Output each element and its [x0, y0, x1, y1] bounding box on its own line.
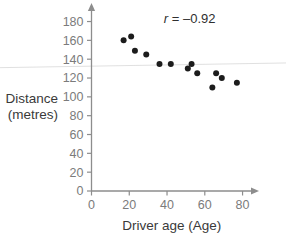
x-axis-tick-label: 40 — [160, 198, 174, 212]
x-axis-tick-label: 0 — [88, 198, 95, 212]
y-axis-tick-label: 100 — [63, 90, 84, 104]
data-point — [121, 37, 127, 43]
data-point — [168, 61, 174, 67]
data-point — [209, 84, 215, 90]
data-point — [234, 80, 240, 86]
y-axis-tick-label: 120 — [63, 71, 84, 85]
plot-canvas: 020406080100120140160180020406080Distanc… — [0, 0, 286, 235]
y-axis-tick-label: 40 — [70, 147, 84, 161]
faint-background-rule — [0, 63, 286, 68]
x-axis-arrow-icon — [251, 187, 259, 194]
data-point — [185, 66, 191, 72]
y-axis-tick-label: 60 — [70, 128, 84, 142]
data-point — [132, 48, 138, 54]
data-point — [143, 51, 149, 57]
data-point — [156, 61, 162, 67]
y-axis-title-line: Distance — [5, 91, 58, 106]
y-axis-tick-label: 160 — [63, 34, 84, 48]
scatter-plot-figure: 020406080100120140160180020406080Distanc… — [0, 0, 286, 235]
data-point — [194, 70, 200, 76]
x-axis-title: Driver age (Age) — [122, 218, 221, 233]
data-point — [128, 34, 134, 40]
x-axis-tick-label: 60 — [198, 198, 212, 212]
y-axis-tick-label: 0 — [77, 184, 84, 198]
x-axis-tick-label: 80 — [236, 198, 250, 212]
data-point — [219, 75, 225, 81]
y-axis-title-line: (metres) — [8, 107, 58, 122]
y-axis-arrow-icon — [88, 3, 95, 11]
data-point — [213, 70, 219, 76]
y-axis-tick-label: 20 — [70, 166, 84, 180]
y-axis-tick-label: 80 — [70, 109, 84, 123]
y-axis-tick-label: 140 — [63, 53, 84, 67]
x-axis-tick-label: 20 — [122, 198, 136, 212]
y-axis-tick-label: 180 — [63, 15, 84, 29]
data-point — [189, 61, 195, 67]
correlation-annotation: r = –0.92 — [164, 11, 216, 26]
